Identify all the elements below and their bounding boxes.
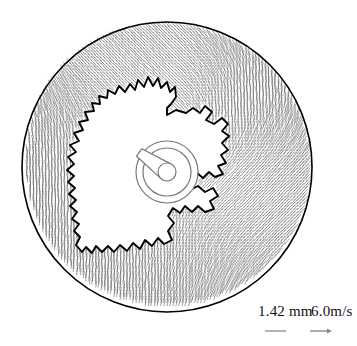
scale-arrow-icon [310,328,332,333]
central-hub [136,141,198,203]
vector-field-figure [0,0,357,346]
legend-velocity-label: 6.0m/s [311,303,353,320]
figure-root: 1.42 mm 6.0m/s [0,0,357,346]
legend-length-label: 1.42 mm [258,303,313,320]
